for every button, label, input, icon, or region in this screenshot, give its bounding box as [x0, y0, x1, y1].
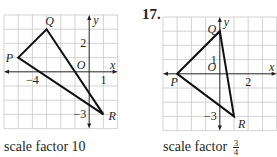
coordinate-graph: yxO12−3PQR	[0, 0, 277, 157]
x-axis-label: x	[268, 60, 275, 74]
arrow-left-icon	[163, 72, 168, 76]
scale-fraction: 34	[233, 139, 240, 156]
fraction-denominator: 4	[233, 148, 240, 156]
vertex-label-r: R	[237, 117, 246, 131]
tick-label: −3	[204, 109, 217, 123]
vertex-label-q: Q	[207, 22, 216, 36]
arrow-up-icon	[218, 17, 222, 22]
y-axis-label: y	[223, 15, 230, 29]
tick-label: 1	[211, 53, 217, 67]
tick-label: 2	[245, 75, 251, 89]
caption-text: scale factor	[163, 139, 231, 154]
caption: scale factor 34	[163, 139, 239, 156]
arrow-down-icon	[218, 126, 222, 131]
vertex-label-p: P	[170, 75, 179, 89]
